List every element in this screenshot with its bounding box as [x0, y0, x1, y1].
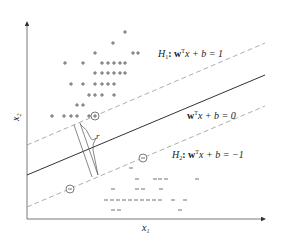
positive-point: [81, 61, 85, 65]
positive-point: [93, 71, 97, 75]
positive-point: [112, 93, 116, 97]
positive-point: [87, 93, 91, 97]
diagram-svg: H1: wTx + b = 1 wTx + b = 0 H2: wTx + b …: [0, 0, 283, 240]
positive-point: [100, 93, 104, 97]
positive-point: [112, 71, 116, 75]
positive-point: [100, 71, 104, 75]
positive-points: [50, 30, 140, 118]
margin-label: r: [96, 131, 100, 141]
positive-point: [136, 51, 140, 55]
positive-point: [62, 114, 66, 118]
x2-axis-label-group: x2: [10, 114, 22, 122]
positive-point: [106, 82, 110, 86]
positive-point: [112, 61, 116, 65]
positive-point: [106, 71, 110, 75]
positive-point: [93, 93, 97, 97]
positive-point: [93, 82, 97, 86]
positive-point: [50, 114, 54, 118]
h2-label: H2: wTx + b = −1: [171, 149, 244, 161]
positive-point: [123, 30, 127, 34]
negative-points: [104, 168, 199, 210]
positive-point: [100, 82, 104, 86]
positive-point: [63, 61, 67, 65]
positive-point: [81, 103, 85, 107]
positive-point: [106, 61, 110, 65]
svm-diagram: H1: wTx + b = 1 wTx + b = 0 H2: wTx + b …: [0, 0, 283, 240]
positive-point: [69, 82, 73, 86]
positive-point: [81, 82, 85, 86]
positive-point: [87, 114, 91, 118]
positive-point: [100, 61, 104, 65]
positive-point: [112, 82, 116, 86]
h1-label: H1: wTx + b = 1: [157, 48, 223, 60]
positive-point: [118, 71, 122, 75]
positive-point: [75, 103, 79, 107]
positive-point: [123, 61, 127, 65]
positive-point: [69, 114, 73, 118]
positive-point: [123, 71, 127, 75]
positive-point: [93, 51, 97, 55]
decision-boundary-label: wTx + b = 0: [187, 110, 236, 121]
x2-axis-label: x2: [10, 114, 22, 122]
positive-point: [118, 61, 122, 65]
support-vectors: [66, 112, 147, 193]
positive-point: [75, 114, 79, 118]
margin-width-line-left: [74, 125, 92, 177]
positive-point: [111, 41, 115, 45]
h1-margin-line: [27, 43, 265, 145]
x1-axis-label: x1: [141, 222, 149, 234]
positive-point: [131, 51, 135, 55]
